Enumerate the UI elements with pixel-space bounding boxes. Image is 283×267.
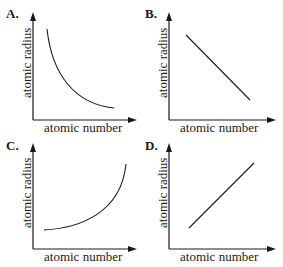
panel-c: C. atomic radius atomic number — [0, 133, 141, 266]
increasing-line — [189, 163, 254, 228]
panel-b: B. atomic radius atomic number — [141, 0, 282, 133]
y-axis-label: atomic radius — [155, 28, 171, 98]
y-axis-label: atomic radius — [155, 158, 171, 228]
decreasing-line — [186, 35, 250, 100]
panel-a: A. atomic radius atomic number — [0, 0, 141, 133]
increasing-curve — [44, 164, 126, 230]
panel-d: D. atomic radius atomic number — [141, 133, 282, 266]
y-axis-label: atomic radius — [19, 158, 35, 228]
decreasing-curve — [47, 29, 114, 108]
x-axis-label: atomic number — [180, 249, 258, 265]
y-axis-label: atomic radius — [19, 28, 35, 98]
x-axis-label: atomic number — [44, 249, 122, 265]
